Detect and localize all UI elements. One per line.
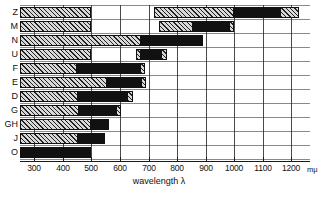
- gridline-1100: [263, 5, 264, 161]
- bar-segment: [77, 63, 140, 74]
- bar-segment: [78, 91, 127, 102]
- bar-segment: [234, 7, 280, 18]
- category-label-G: G: [0, 106, 18, 115]
- tick-label-700: 700: [134, 164, 164, 173]
- bar-segment: [280, 7, 299, 18]
- bar-segment: [20, 91, 78, 102]
- bar-segment: [20, 147, 91, 158]
- category-label-U: U: [0, 50, 18, 59]
- tick-label-400: 400: [48, 164, 78, 173]
- bar-segment: [154, 7, 234, 18]
- tick-label-1100: 1100: [248, 164, 278, 173]
- bar-segment: [141, 49, 161, 60]
- tick-label-300: 300: [19, 164, 49, 173]
- tick-500: [91, 157, 92, 161]
- category-label-M: M: [0, 22, 18, 31]
- plot-area: ZMNUFEDGGHJO 300400500600700800900100011…: [0, 0, 318, 202]
- bar-segment: [20, 77, 107, 88]
- tick-400: [63, 157, 64, 161]
- bar-segment: [116, 105, 121, 116]
- bar-segment: [78, 133, 105, 144]
- category-label-O: O: [0, 148, 18, 157]
- bar-segment: [20, 21, 91, 32]
- tick-800: [177, 157, 178, 161]
- category-label-Z: Z: [0, 8, 18, 17]
- bar-segment: [229, 21, 235, 32]
- bar-segment: [20, 35, 141, 46]
- x-axis-unit-label: mμ: [307, 165, 318, 174]
- tick-900: [206, 157, 207, 161]
- bar-segment: [20, 119, 91, 130]
- category-label-F: F: [0, 64, 18, 73]
- tick-label-600: 600: [105, 164, 135, 173]
- bar-segment: [20, 63, 77, 74]
- category-label-E: E: [0, 78, 18, 87]
- tick-300: [34, 157, 35, 161]
- tick-label-500: 500: [76, 164, 106, 173]
- tick-1000: [234, 157, 235, 161]
- tick-1200: [291, 157, 292, 161]
- bar-segment: [20, 133, 78, 144]
- bar-segment: [107, 77, 140, 88]
- gridline-700: [149, 5, 150, 161]
- bar-segment: [20, 49, 91, 60]
- tick-700: [149, 157, 150, 161]
- bar-segment: [20, 105, 79, 116]
- tick-label-900: 900: [191, 164, 221, 173]
- bar-segment: [141, 77, 147, 88]
- bar-segment: [159, 21, 193, 32]
- tick-600: [120, 157, 121, 161]
- x-axis-line: [20, 161, 310, 162]
- bar-segment: [91, 119, 109, 130]
- tick-label-1200: 1200: [276, 164, 306, 173]
- bar-segment: [79, 105, 116, 116]
- bar-segment: [140, 63, 145, 74]
- bar-chart: ZMNUFEDGGHJO 300400500600700800900100011…: [0, 0, 318, 202]
- bar-segment: [193, 21, 229, 32]
- category-label-D: D: [0, 92, 18, 101]
- tick-label-800: 800: [162, 164, 192, 173]
- tick-label-1000: 1000: [219, 164, 249, 173]
- x-axis-title: wavelength λ: [0, 176, 318, 186]
- bar-segment: [127, 91, 133, 102]
- gridline-1200: [291, 5, 292, 161]
- category-label-N: N: [0, 36, 18, 45]
- category-label-GH: GH: [0, 120, 18, 129]
- tick-1100: [263, 157, 264, 161]
- bar-segment: [141, 35, 202, 46]
- bar-segment: [20, 7, 91, 18]
- category-label-J: J: [0, 134, 18, 143]
- bar-segment: [161, 49, 167, 60]
